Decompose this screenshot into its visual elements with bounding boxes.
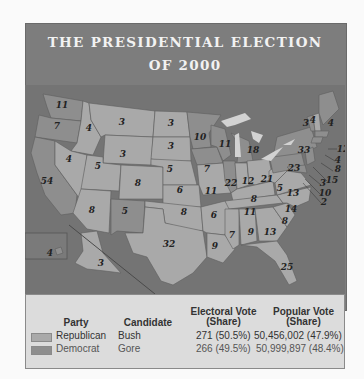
svg-text:8: 8 — [282, 216, 289, 226]
svg-text:7: 7 — [204, 164, 211, 174]
svg-text:11: 11 — [56, 100, 69, 110]
svg-text:5: 5 — [122, 206, 128, 216]
svg-text:3: 3 — [168, 141, 174, 151]
svg-text:3: 3 — [119, 117, 125, 127]
svg-text:12: 12 — [242, 176, 255, 186]
svg-text:15: 15 — [326, 175, 339, 185]
svg-text:54: 54 — [41, 176, 54, 186]
svg-text:4: 4 — [310, 115, 316, 125]
svg-text:33: 33 — [298, 145, 311, 155]
swatch-republican — [31, 333, 52, 342]
party-republican: Republican — [56, 330, 106, 342]
svg-text:22: 22 — [224, 178, 238, 188]
svg-text:8: 8 — [251, 194, 258, 204]
svg-text:10: 10 — [194, 132, 207, 142]
party-democrat: Democrat — [56, 343, 99, 355]
state-ct — [311, 137, 323, 143]
page-title: THE PRESIDENTIAL ELECTION OF 2000 — [25, 23, 345, 85]
svg-text:8: 8 — [335, 164, 342, 174]
legend-table: Party Candidate Electoral Vote (Share) P… — [25, 294, 345, 369]
state-wy — [103, 135, 153, 165]
title-line-2: OF 2000 — [25, 54, 345, 77]
svg-text:3: 3 — [120, 149, 126, 159]
electoral-gore: 266 (49.5%) — [196, 343, 250, 355]
svg-text:32: 32 — [163, 239, 176, 249]
candidate-bush: Bush — [118, 330, 141, 342]
svg-text:9: 9 — [212, 241, 219, 251]
svg-text:13: 13 — [264, 227, 277, 237]
svg-text:11: 11 — [244, 207, 257, 217]
svg-text:4: 4 — [47, 248, 53, 258]
svg-text:11: 11 — [219, 139, 232, 149]
state-nm — [111, 199, 145, 235]
svg-text:14: 14 — [285, 204, 298, 214]
svg-text:9: 9 — [248, 227, 255, 237]
svg-text:5: 5 — [95, 161, 101, 171]
svg-text:3: 3 — [303, 118, 309, 128]
header-electoral: Electoral Vote (Share) — [186, 307, 261, 327]
svg-text:8: 8 — [89, 205, 96, 215]
svg-text:4: 4 — [86, 123, 92, 133]
electoral-bush: 271 (50.5%) — [196, 330, 250, 342]
header-party: Party — [56, 318, 96, 328]
svg-text:25: 25 — [280, 262, 294, 272]
svg-text:8: 8 — [135, 178, 142, 188]
svg-text:5: 5 — [277, 183, 283, 193]
svg-text:3: 3 — [168, 118, 174, 128]
svg-text:12: 12 — [337, 144, 345, 154]
svg-text:6: 6 — [211, 210, 218, 220]
svg-text:4: 4 — [328, 118, 334, 128]
svg-text:4: 4 — [66, 154, 72, 164]
header-popular: Popular Vote (Share) — [261, 307, 346, 327]
svg-text:21: 21 — [260, 174, 274, 184]
svg-text:11: 11 — [205, 186, 218, 196]
header-candidate: Candidate — [118, 318, 178, 328]
popular-gore: 50,999,897 (48.4%) — [256, 343, 344, 355]
svg-text:13: 13 — [287, 188, 300, 198]
state-ma — [315, 131, 329, 137]
svg-text:7: 7 — [54, 121, 61, 131]
svg-text:7: 7 — [229, 230, 236, 240]
svg-text:23: 23 — [287, 163, 301, 173]
svg-text:8: 8 — [181, 207, 188, 217]
candidate-gore: Gore — [118, 343, 140, 355]
svg-text:18: 18 — [247, 145, 260, 155]
popular-bush: 50,456,002 (47.9%) — [254, 330, 342, 342]
svg-text:3: 3 — [98, 258, 104, 268]
swatch-democrat — [31, 346, 52, 355]
svg-text:6: 6 — [177, 185, 184, 195]
us-electoral-map: 11 7 4 54 4 3 3 5 8 8 5 3 3 5 6 8 32 10 … — [25, 85, 345, 294]
svg-text:2: 2 — [320, 197, 327, 207]
svg-text:5: 5 — [167, 164, 173, 174]
title-line-1: THE PRESIDENTIAL ELECTION — [25, 31, 345, 54]
